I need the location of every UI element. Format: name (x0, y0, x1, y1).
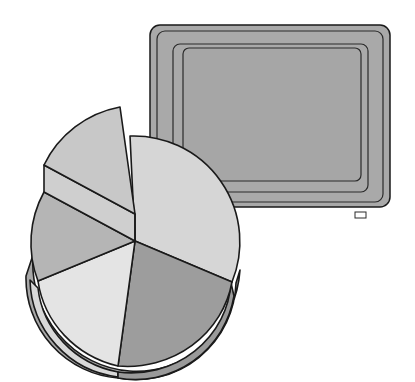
clipart-illustration (0, 0, 415, 382)
power-indicator-icon (355, 212, 366, 218)
